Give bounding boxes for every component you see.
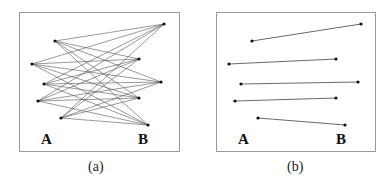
vertex-a [30,62,33,65]
panel-complete-bipartite: A B (a) [20,13,180,176]
vertex-b [146,123,149,126]
vertex-a [53,39,56,42]
vertex-b [137,96,140,99]
vertex-b [359,22,362,25]
matching-edge [258,118,345,125]
edge-group [32,24,164,125]
bipartite-edge [44,84,139,98]
matching-edge [241,82,358,84]
vertex-a [227,62,230,65]
bipartite-edge [38,82,161,101]
set-a-label: A [238,131,249,147]
bipartite-edge [61,98,139,118]
bipartite-edge [38,59,139,101]
bipartite-edge [55,41,139,59]
bipartite-edge [55,41,139,98]
panel-matching: A B (b) [217,13,376,176]
vertex-a [59,116,62,119]
set-b-label: B [336,131,346,147]
bipartite-edge [44,84,148,125]
bipartite-edge [32,24,164,64]
vertex-group [227,22,362,126]
vertex-b [162,22,165,25]
vertex-b [334,96,337,99]
panel-caption: (b) [287,159,304,175]
bipartite-edge [61,118,148,125]
bipartite-figure: A B (a) A B (b) [0,0,391,183]
bipartite-edge [32,64,161,82]
vertex-group [30,22,165,126]
panel-caption: (a) [88,159,104,175]
vertex-b [159,80,162,83]
vertex-a [42,82,45,85]
vertex-a [36,99,39,102]
set-a-label: A [41,131,52,147]
vertex-a [233,99,236,102]
vertex-b [343,123,346,126]
edge-group [229,24,361,125]
vertex-b [137,57,140,60]
set-b-label: B [138,131,148,147]
matching-edge [229,59,336,64]
vertex-a [239,82,242,85]
matching-edge [235,98,336,101]
bipartite-edge [44,24,164,84]
bipartite-edge [55,41,161,82]
vertex-b [334,57,337,60]
bipartite-edge [61,24,164,118]
vertex-b [356,80,359,83]
bipartite-edge [38,101,148,125]
vertex-a [256,116,259,119]
bipartite-edge [38,24,164,101]
bipartite-edge [32,64,148,125]
matching-edge [252,24,361,41]
vertex-a [250,39,253,42]
